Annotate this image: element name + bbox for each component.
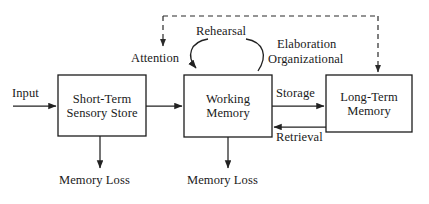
node-label-line2: Memory [347, 104, 391, 118]
node-label-line1: Short-Term [73, 92, 131, 106]
label-memory-loss-sensory: Memory Loss [59, 173, 130, 187]
edge-rehearsal-arc-left [191, 39, 208, 68]
node-label-long-term-memory: Long-Term Memory [326, 75, 412, 132]
label-storage: Storage [276, 86, 315, 100]
node-label-line2: Memory [206, 106, 250, 120]
node-label-line1: Working [206, 92, 250, 106]
label-attention: Attention [131, 51, 179, 65]
node-label-working-memory: Working Memory [184, 75, 272, 137]
node-label-line1: Long-Term [340, 90, 398, 104]
node-label-short-term-sensory-store: Short-Term Sensory Store [58, 75, 146, 136]
label-retrieval: Retrieval [276, 130, 323, 144]
label-memory-loss-working: Memory Loss [187, 173, 258, 187]
label-elaboration: Elaboration [277, 37, 336, 51]
label-rehearsal: Rehearsal [196, 24, 246, 38]
label-input: Input [12, 86, 39, 100]
node-label-line2: Sensory Store [66, 106, 137, 120]
edge-rehearsal-arc-right [246, 39, 263, 71]
label-organizational: Organizational [268, 52, 343, 66]
memory-model-diagram: Short-Term Sensory Store Working Memory … [0, 0, 429, 204]
